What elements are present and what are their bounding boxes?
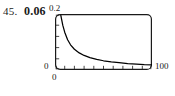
problem-number: 45. bbox=[3, 6, 17, 17]
x-axis-min-label: 0 bbox=[52, 73, 57, 82]
x-axis-ticks bbox=[56, 66, 151, 69]
y-axis-ticks bbox=[56, 15, 59, 69]
plot-area bbox=[55, 14, 152, 70]
x-axis-max-label: 100 bbox=[155, 62, 169, 71]
y-axis-min-label: 0 bbox=[44, 62, 49, 71]
figure-container: 45. 0.06 0.2 0 0 100 bbox=[0, 0, 175, 96]
y-axis-max-label: 0.2 bbox=[49, 4, 60, 13]
decay-curve bbox=[61, 15, 152, 65]
plot-svg bbox=[55, 14, 152, 70]
answer-value: 0.06 bbox=[24, 5, 46, 17]
